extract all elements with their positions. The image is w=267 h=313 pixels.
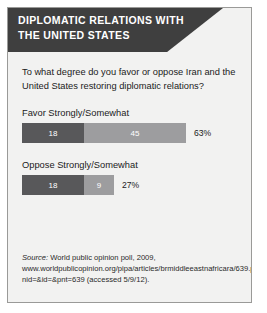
survey-question: To what degree do you favor or oppose Ir… (22, 66, 237, 93)
infographic-panel: DIPLOMATIC RELATIONS WITH THE UNITED STA… (7, 7, 252, 303)
page-title: DIPLOMATIC RELATIONS WITH THE UNITED STA… (18, 13, 208, 43)
bar-segment-favor-strongly: 18 (22, 123, 84, 143)
bar-row-oppose: 18 9 27% (22, 175, 237, 195)
bar-group-favor: Favor Strongly/Somewhat 18 45 63% (22, 108, 237, 143)
bar-segment-oppose-strongly: 18 (22, 175, 84, 195)
bar-segment-oppose-somewhat: 9 (84, 175, 114, 195)
source-label: Source: (22, 253, 48, 262)
bar-label-favor: Favor Strongly/Somewhat (22, 108, 237, 118)
chart-body: To what degree do you favor or oppose Ir… (8, 66, 251, 195)
bar-row-favor: 18 45 63% (22, 123, 237, 143)
source-text: World public opinion poll, 2009, www.wor… (22, 253, 252, 284)
bar-total-oppose: 27% (114, 175, 139, 195)
bar-total-favor: 63% (186, 123, 211, 143)
bar-label-oppose: Oppose Strongly/Somewhat (22, 160, 237, 170)
header-band: DIPLOMATIC RELATIONS WITH THE UNITED STA… (8, 8, 251, 52)
source-citation: Source: World public opinion poll, 2009,… (22, 252, 241, 286)
bar-group-oppose: Oppose Strongly/Somewhat 18 9 27% (22, 160, 237, 195)
bar-segment-favor-somewhat: 45 (84, 123, 186, 143)
